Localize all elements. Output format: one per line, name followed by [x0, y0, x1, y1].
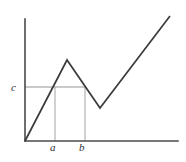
- graph-canvas: [0, 0, 186, 162]
- figure-container: a b c: [0, 0, 186, 162]
- x-tick-label-a: a: [50, 142, 56, 153]
- y-tick-label-c: c: [11, 82, 16, 93]
- x-tick-label-b: b: [79, 142, 85, 153]
- piecewise-linear-curve: [25, 16, 170, 141]
